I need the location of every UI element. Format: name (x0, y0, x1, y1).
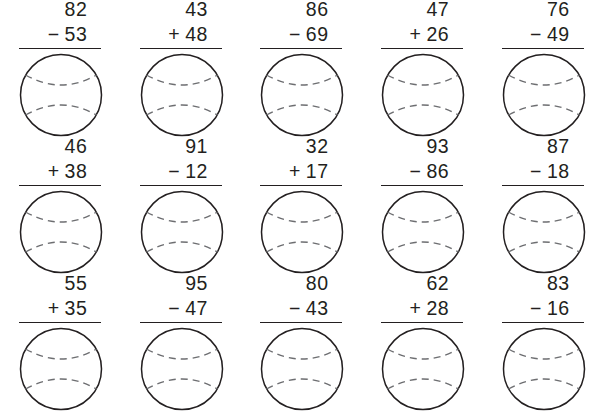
top-operand: 82 (19, 0, 101, 25)
answer-circle[interactable] (260, 190, 344, 274)
answer-circle[interactable] (140, 190, 224, 274)
bottom-operand: 43 (306, 297, 329, 319)
problem-5: 76−49 (502, 0, 584, 137)
problem-3: 86−69 (260, 0, 342, 137)
problem-7: 91−12 (140, 137, 222, 274)
operator-sign: − (168, 162, 180, 182)
answer-circle[interactable] (381, 53, 465, 137)
top-operand: 86 (260, 0, 342, 25)
operator-sign: + (409, 299, 421, 319)
operator-line: −16 (502, 299, 584, 324)
bottom-operand: 47 (185, 297, 208, 319)
operator-line: −69 (260, 25, 342, 50)
baseball-seam-top-icon (267, 212, 338, 222)
top-operand: 43 (140, 0, 222, 25)
baseball-seam-top-icon (388, 212, 459, 222)
answer-circle-outline (21, 192, 102, 273)
bottom-operand: 17 (306, 160, 329, 182)
baseball-seam-top-icon (508, 212, 579, 222)
baseball-seam-top-icon (26, 349, 97, 359)
operator-line: +48 (140, 25, 222, 50)
baseball-seam-top-icon (146, 75, 217, 85)
bottom-operand: 18 (547, 160, 570, 182)
answer-circle[interactable] (140, 327, 224, 411)
answer-circle[interactable] (19, 190, 103, 274)
baseball-seam-bottom-icon (146, 105, 217, 115)
answer-circle[interactable] (140, 53, 224, 137)
answer-circle-outline (383, 329, 464, 410)
top-operand: 55 (19, 274, 101, 299)
answer-circle-outline (262, 329, 343, 410)
answer-circle[interactable] (502, 190, 586, 274)
baseball-seam-top-icon (388, 349, 459, 359)
baseball-seam-top-icon (146, 349, 217, 359)
answer-circle[interactable] (260, 327, 344, 411)
operator-sign: − (48, 25, 60, 45)
problem-8: 32+17 (260, 137, 342, 274)
operator-sign: − (530, 299, 542, 319)
problem-cell: 43+48 (121, 0, 242, 137)
operator-line: −47 (140, 299, 222, 324)
baseball-seam-bottom-icon (508, 242, 579, 252)
problem-cell: 83−16 (482, 274, 603, 411)
baseball-seam-bottom-icon (26, 105, 97, 115)
problem-15: 83−16 (502, 274, 584, 411)
answer-circle-outline (141, 329, 222, 410)
problem-cell: 32+17 (241, 137, 362, 274)
problem-11: 55+35 (19, 274, 101, 411)
bottom-operand: 69 (306, 23, 329, 45)
answer-circle[interactable] (19, 53, 103, 137)
problem-cell: 82−53 (0, 0, 121, 137)
operator-line: −53 (19, 25, 101, 50)
operator-sign: − (409, 162, 421, 182)
answer-circle[interactable] (502, 53, 586, 137)
answer-circle[interactable] (381, 190, 465, 274)
baseball-seam-top-icon (267, 349, 338, 359)
answer-circle-outline (503, 55, 584, 136)
problem-cell: 86−69 (241, 0, 362, 137)
operator-sign: − (530, 162, 542, 182)
operator-line: −43 (260, 299, 342, 324)
top-operand: 91 (140, 137, 222, 162)
problem-cell: 80−43 (241, 274, 362, 411)
problem-row: 46+3891−1232+1793−8687−18 (0, 137, 603, 274)
baseball-seam-top-icon (26, 212, 97, 222)
bottom-operand: 35 (65, 297, 88, 319)
bottom-operand: 26 (426, 23, 449, 45)
operator-sign: − (530, 25, 542, 45)
top-operand: 46 (19, 137, 101, 162)
bottom-operand: 16 (547, 297, 570, 319)
baseball-seam-top-icon (508, 349, 579, 359)
baseball-seam-bottom-icon (267, 242, 338, 252)
bottom-operand: 48 (185, 23, 208, 45)
baseball-seam-top-icon (146, 212, 217, 222)
answer-circle[interactable] (19, 327, 103, 411)
answer-circle-outline (21, 55, 102, 136)
problem-2: 43+48 (140, 0, 222, 137)
bottom-operand: 86 (426, 160, 449, 182)
answer-circle-outline (383, 192, 464, 273)
baseball-seam-bottom-icon (267, 105, 338, 115)
bottom-operand: 28 (426, 297, 449, 319)
operator-line: −12 (140, 162, 222, 187)
baseball-seam-top-icon (26, 75, 97, 85)
problem-13: 80−43 (260, 274, 342, 411)
answer-circle[interactable] (381, 327, 465, 411)
bottom-operand: 49 (547, 23, 570, 45)
operator-line: +26 (381, 25, 463, 50)
problem-cell: 76−49 (482, 0, 603, 137)
baseball-seam-bottom-icon (26, 242, 97, 252)
problem-1: 82−53 (19, 0, 101, 137)
answer-circle[interactable] (260, 53, 344, 137)
baseball-seam-bottom-icon (146, 379, 217, 389)
answer-circle-outline (503, 329, 584, 410)
operator-sign: − (289, 25, 301, 45)
baseball-seam-top-icon (508, 75, 579, 85)
problem-10: 87−18 (502, 137, 584, 274)
baseball-seam-bottom-icon (146, 242, 217, 252)
operator-sign: − (289, 299, 301, 319)
baseball-seam-top-icon (267, 75, 338, 85)
top-operand: 76 (502, 0, 584, 25)
answer-circle[interactable] (502, 327, 586, 411)
answer-circle-outline (21, 329, 102, 410)
